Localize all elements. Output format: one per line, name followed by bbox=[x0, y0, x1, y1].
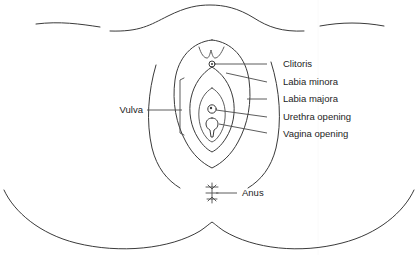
mons-pubis-outline bbox=[110, 5, 304, 31]
upper-outline-left bbox=[36, 23, 100, 27]
label-clitoris: Clitoris bbox=[283, 58, 312, 69]
label-labia-majora: Labia majora bbox=[283, 93, 339, 104]
anatomy-diagram: Clitoris Labia minora Labia majora Ureth… bbox=[0, 0, 418, 255]
urethra-marker bbox=[208, 105, 216, 113]
label-vulva: Vulva bbox=[120, 104, 144, 115]
leader-urethra bbox=[216, 110, 267, 117]
label-vagina-opening: Vagina opening bbox=[283, 128, 348, 139]
label-urethra-opening: Urethra opening bbox=[283, 111, 351, 122]
clitoris-dot bbox=[211, 63, 213, 65]
labia-minora-outline bbox=[190, 67, 234, 152]
label-labia-minora: Labia minora bbox=[283, 76, 339, 87]
vulva-bracket bbox=[180, 78, 184, 135]
label-anus: Anus bbox=[242, 187, 264, 198]
vagina-marker bbox=[206, 118, 218, 137]
labia-majora-outline bbox=[174, 40, 250, 168]
left-thigh-crease bbox=[149, 65, 180, 188]
urethra-dot bbox=[210, 107, 212, 109]
leader-labia-minora bbox=[226, 73, 267, 82]
vestibule-outline bbox=[199, 88, 225, 142]
clitoral-hood bbox=[199, 47, 224, 58]
upper-outline-right bbox=[320, 23, 384, 26]
